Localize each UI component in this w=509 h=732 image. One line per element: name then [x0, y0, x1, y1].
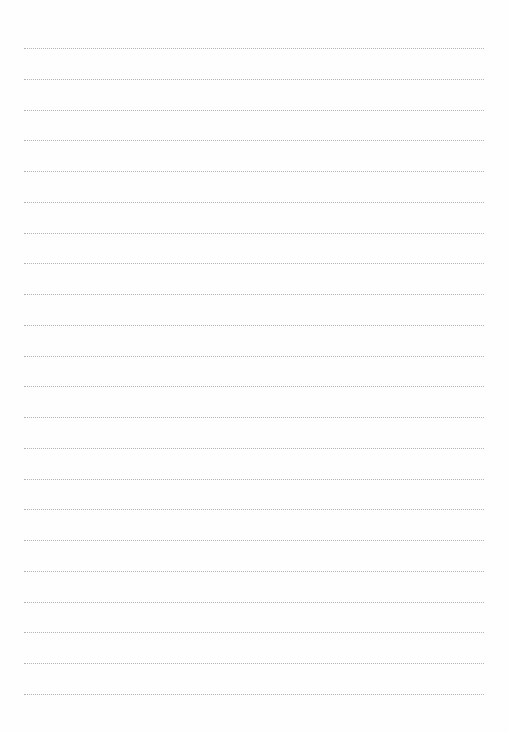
ruled-line: [24, 602, 484, 603]
ruled-line: [24, 294, 484, 295]
ruled-line: [24, 694, 484, 695]
ruled-line: [24, 233, 484, 234]
ruled-line: [24, 386, 484, 387]
ruled-line: [24, 356, 484, 357]
ruled-line: [24, 263, 484, 264]
ruled-line: [24, 48, 484, 49]
ruled-line: [24, 448, 484, 449]
ruled-line: [24, 171, 484, 172]
ruled-line: [24, 632, 484, 633]
ruled-line: [24, 202, 484, 203]
lined-paper-page: [0, 0, 509, 732]
ruled-line: [24, 110, 484, 111]
ruled-line: [24, 571, 484, 572]
ruled-line: [24, 540, 484, 541]
ruled-line: [24, 509, 484, 510]
ruled-line: [24, 140, 484, 141]
ruled-line: [24, 79, 484, 80]
ruled-line: [24, 325, 484, 326]
ruled-line: [24, 663, 484, 664]
ruled-line: [24, 479, 484, 480]
ruled-line: [24, 417, 484, 418]
